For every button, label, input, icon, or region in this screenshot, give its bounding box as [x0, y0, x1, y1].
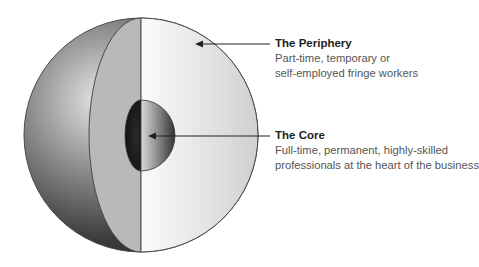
- core-label: The Core Full-time, permanent, highly-sk…: [275, 128, 479, 173]
- core-desc-line-2: professionals at the heart of the busine…: [275, 158, 479, 173]
- periphery-desc-line-2: self-employed fringe workers: [275, 66, 418, 81]
- core-title: The Core: [275, 129, 325, 141]
- core-desc-line-1: Full-time, permanent, highly-skilled: [275, 143, 479, 158]
- periphery-label: The Periphery Part-time, temporary or se…: [275, 36, 418, 81]
- periphery-desc-line-1: Part-time, temporary or: [275, 51, 418, 66]
- periphery-title: The Periphery: [275, 37, 352, 49]
